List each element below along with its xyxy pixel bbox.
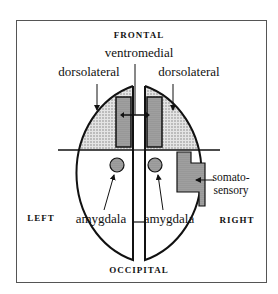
label-dorsolateral-right: dorsolateral bbox=[158, 64, 220, 79]
label-amygdala-left: amygdala bbox=[76, 211, 127, 226]
right-ventromedial-region bbox=[147, 97, 162, 147]
label-frontal: FRONTAL bbox=[114, 30, 164, 40]
left-ventromedial-region bbox=[116, 97, 131, 147]
right-amygdala-region bbox=[148, 158, 162, 172]
brain-diagram: FRONTAL ventromedial dorsolateral dorsol… bbox=[0, 0, 278, 294]
label-dorsolateral-left: dorsolateral bbox=[58, 64, 120, 79]
label-occipital: OCCIPITAL bbox=[109, 265, 168, 275]
right-amygdala-arrow bbox=[158, 175, 163, 210]
label-somatosensory-2: sensory bbox=[213, 184, 248, 197]
label-somatosensory-1: somato- bbox=[212, 171, 249, 183]
left-amygdala-region bbox=[110, 158, 124, 172]
left-hemisphere bbox=[50, 80, 134, 260]
label-ventromedial: ventromedial bbox=[105, 45, 174, 60]
right-hemisphere bbox=[144, 80, 228, 260]
left-amygdala-arrow bbox=[104, 175, 114, 210]
label-right: RIGHT bbox=[219, 215, 254, 225]
label-left: LEFT bbox=[27, 213, 55, 223]
label-amygdala-right: amygdala bbox=[144, 211, 195, 226]
